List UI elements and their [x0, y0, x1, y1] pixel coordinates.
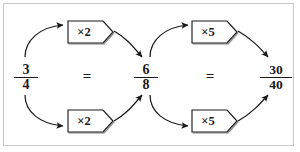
equals-sign-second: = [199, 68, 221, 85]
arrow-left-top-out [25, 25, 63, 57]
fraction-left: 3 4 [14, 63, 38, 93]
arrow-right-top-out [150, 25, 188, 57]
op-label-bottom-right-text: ×5 [201, 114, 214, 129]
fraction-middle: 6 8 [134, 63, 158, 93]
fraction-left-denominator: 4 [14, 78, 38, 92]
equals-sign-first: = [76, 68, 98, 85]
arrow-right-top-in [238, 31, 268, 57]
op-label-bottom-left-text: ×2 [77, 114, 90, 129]
op-label-top-left-text: ×2 [77, 25, 90, 40]
fraction-right-numerator: 30 [260, 63, 292, 78]
op-label-top-left[interactable]: ×2 [68, 21, 110, 43]
arrow-left-bottom-out [25, 95, 63, 126]
fraction-right-denominator: 40 [260, 78, 292, 92]
fraction-left-numerator: 3 [14, 63, 38, 78]
arrow-right-bottom-in [238, 95, 268, 121]
fraction-middle-denominator: 8 [134, 78, 158, 92]
op-label-bottom-left[interactable]: ×2 [68, 110, 110, 132]
arrow-right-bottom-out [150, 95, 188, 126]
fraction-middle-numerator: 6 [134, 63, 158, 78]
fraction-right: 30 40 [260, 63, 292, 92]
diagram-page: ×2 ×2 ×5 ×5 3 4 6 8 30 40 = = [0, 0, 300, 152]
arrow-left-bottom-in [114, 95, 142, 121]
arrow-left-top-in [114, 31, 142, 57]
op-label-bottom-right[interactable]: ×5 [192, 110, 234, 132]
op-label-top-right-text: ×5 [201, 25, 214, 40]
op-label-top-right[interactable]: ×5 [192, 21, 234, 43]
